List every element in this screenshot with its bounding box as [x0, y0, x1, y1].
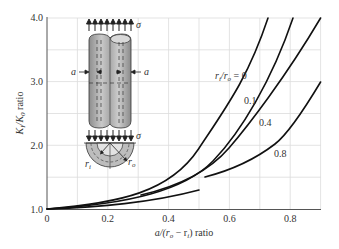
stress-arrows-top [87, 19, 134, 31]
x-tick-08: 0.8 [284, 213, 297, 224]
curve-label-0.4: 0.4 [259, 117, 272, 128]
chart: 1.0 2.0 3.0 4.0 0 0.2 0.4 0.6 0.8 a/(ro … [0, 0, 339, 249]
y-axis-label: KI/K0 ratio [14, 92, 27, 136]
y-tick-4: 4.0 [31, 12, 44, 23]
x-tick-0: 0 [45, 213, 50, 224]
x-tick-02: 0.2 [102, 213, 115, 224]
stress-arrows-bottom [87, 130, 134, 141]
sigma-top-label: σ [136, 19, 142, 30]
outer-radius-label: ro [128, 156, 136, 169]
curve-label-0.1: 0.1 [244, 95, 257, 106]
y-tick-3: 3.0 [31, 76, 44, 87]
curve-label-0.8: 0.8 [274, 148, 287, 159]
curve-ri-ro-0.8 [205, 82, 321, 177]
y-tick-2: 2.0 [31, 140, 44, 151]
x-axis-label: a/(ro − ri) ratio [155, 227, 214, 240]
y-tick-1: 1.0 [31, 204, 44, 215]
inner-radius-label: ri [85, 158, 91, 171]
specimen-illustration: σ a a [71, 19, 149, 171]
sigma-bottom-label: σ [136, 130, 142, 141]
cylinder-top-opening [111, 35, 131, 44]
x-tick-04: 0.4 [162, 213, 175, 224]
x-tick-06: 0.6 [223, 213, 236, 224]
crack-depth-right-label: a [144, 66, 149, 77]
crack-depth-left-label: a [71, 66, 76, 77]
